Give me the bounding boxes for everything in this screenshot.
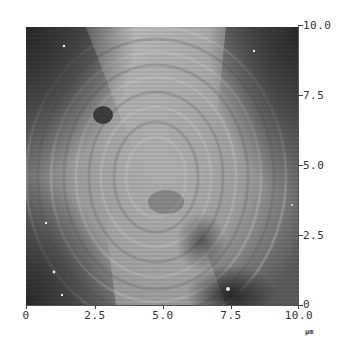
x-tick-label: 2.5 xyxy=(84,310,105,321)
y-tick-label: 10.0 xyxy=(303,20,332,31)
x-tick-label: 5.0 xyxy=(152,310,173,321)
x-tick-label: 7.5 xyxy=(220,310,241,321)
x-tick-label: 10.0 xyxy=(285,310,314,321)
unit-label: μm xyxy=(305,329,313,336)
y-tick-label: 2.5 xyxy=(303,230,324,241)
x-tick-label: 0 xyxy=(22,310,29,321)
y-tick-label: 5.0 xyxy=(303,160,324,171)
afm-scan-image xyxy=(26,27,298,305)
y-tick-label: 7.5 xyxy=(303,90,324,101)
